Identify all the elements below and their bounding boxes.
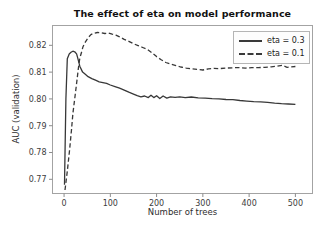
legend-entry-eta-03: eta = 0.3 bbox=[239, 35, 305, 47]
figure: The effect of eta on model performance A… bbox=[0, 0, 324, 232]
y-tick-label: 0.80 bbox=[29, 95, 47, 104]
solid-line-icon bbox=[239, 40, 262, 42]
legend-entry-eta-01: eta = 0.1 bbox=[239, 48, 305, 60]
x-tick-label: 200 bbox=[149, 199, 164, 208]
series-line-eta-0.3 bbox=[65, 51, 296, 185]
y-tick-label: 0.77 bbox=[29, 175, 47, 184]
legend-label: eta = 0.1 bbox=[267, 50, 304, 58]
y-tick-label: 0.82 bbox=[29, 41, 47, 50]
legend-label: eta = 0.3 bbox=[267, 37, 304, 45]
x-tick-label: 0 bbox=[62, 199, 67, 208]
x-tick-label: 500 bbox=[288, 199, 303, 208]
y-tick-label: 0.81 bbox=[29, 68, 47, 77]
y-tick-label: 0.79 bbox=[29, 122, 47, 131]
x-tick-label: 300 bbox=[195, 199, 210, 208]
legend: eta = 0.3 eta = 0.1 bbox=[233, 31, 310, 64]
x-tick-label: 400 bbox=[241, 199, 256, 208]
dashed-line-icon bbox=[239, 53, 262, 55]
y-tick-label: 0.78 bbox=[29, 148, 47, 157]
x-tick-label: 100 bbox=[103, 199, 118, 208]
